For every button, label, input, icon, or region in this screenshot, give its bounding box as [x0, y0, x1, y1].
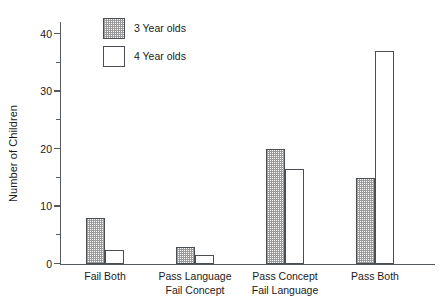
category-label-line1: Pass Concept — [252, 270, 317, 282]
bar — [195, 255, 214, 264]
legend-item-4-year-olds: 4 Year olds — [103, 44, 186, 68]
category-label-line2: Fail Language — [225, 283, 345, 297]
legend-swatch-icon-4-year-olds — [103, 46, 125, 67]
legend-item-3-year-olds: 3 Year olds — [103, 16, 186, 40]
category-label-line1: Fail Both — [84, 270, 125, 282]
y-axis-tick-label: 10 — [24, 201, 52, 211]
bar — [356, 178, 375, 264]
legend-swatch-icon-3-year-olds — [103, 18, 125, 39]
bar — [266, 149, 285, 264]
bar — [105, 250, 124, 264]
bar — [375, 51, 394, 264]
legend-label: 4 Year olds — [134, 50, 186, 62]
bar — [285, 169, 304, 264]
y-axis-tick-label: 40 — [24, 29, 52, 39]
y-axis-tick-label: 30 — [24, 86, 52, 96]
category-label-line1: Pass Language — [159, 270, 232, 282]
bar — [176, 247, 195, 264]
chart-legend: 3 Year olds 4 Year olds — [103, 16, 186, 72]
bar-chart: Number of Children 010203040 Fail BothPa… — [0, 0, 442, 307]
bar — [86, 218, 105, 264]
x-axis-category-label: Pass Both — [315, 269, 435, 283]
y-axis-tick-label: 0 — [24, 259, 52, 269]
category-label-line1: Pass Both — [351, 270, 399, 282]
legend-label: 3 Year olds — [134, 22, 186, 34]
y-axis-tick-label: 20 — [24, 144, 52, 154]
